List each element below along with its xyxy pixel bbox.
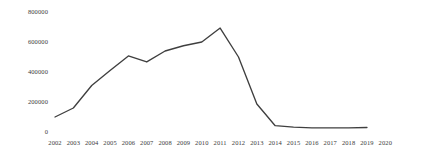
y-tick-label: 800000 bbox=[28, 9, 48, 16]
line-chart: 0200000400000600000800000 20022003200420… bbox=[0, 0, 428, 153]
y-tick-label: 200000 bbox=[28, 99, 48, 106]
y-tick-label: 0 bbox=[45, 129, 48, 136]
y-tick-label: 600000 bbox=[28, 39, 48, 46]
data-series-line bbox=[55, 28, 367, 128]
x-tick-label: 2020 bbox=[373, 140, 397, 147]
y-tick-label: 400000 bbox=[28, 69, 48, 76]
plot-area bbox=[0, 0, 428, 153]
